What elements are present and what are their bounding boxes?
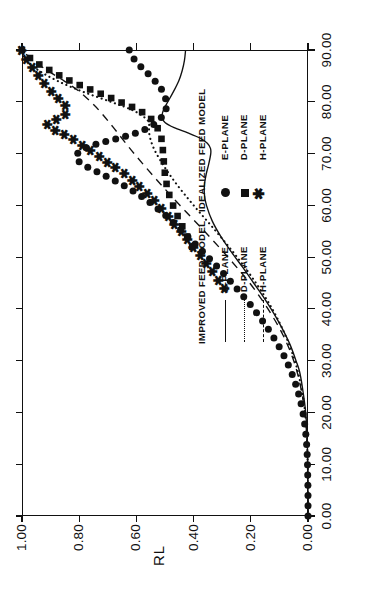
legend-item: H-PLANE (254, 220, 273, 344)
data-point-circle (126, 47, 133, 54)
x-axis-tick (308, 308, 315, 309)
data-point-square (76, 82, 83, 89)
legend-item: E-PLANE (216, 220, 235, 344)
data-point-square (161, 158, 168, 165)
x-axis-tick (308, 257, 315, 258)
y-axis-tick-label: 1.00 (14, 524, 29, 576)
legend-item: D-PLANE (235, 220, 254, 344)
y-axis-tick (307, 43, 308, 50)
data-point-circle (152, 78, 159, 85)
y-axis-tick-label: 0.20 (243, 524, 258, 576)
data-point-square (66, 77, 73, 84)
data-point-circle (280, 352, 287, 359)
legend-item-label: E-PLANE (219, 115, 230, 160)
data-point-circle (112, 135, 119, 142)
data-point-circle (301, 421, 308, 428)
data-point-square (160, 147, 167, 154)
data-point-square (163, 181, 170, 188)
data-point-circle (84, 164, 91, 171)
x-axis-tick (308, 49, 315, 50)
legend-item: ✱H-PLANE (254, 88, 273, 212)
data-point-circle (304, 461, 311, 468)
legend-heading: IMPROVED FEED MODEL (196, 220, 207, 344)
y-axis-tick (79, 43, 80, 50)
x-axis-tick (16, 360, 23, 361)
data-point-circle (295, 390, 302, 397)
legend-heading: IDEALIZED FEED MODEL (196, 88, 207, 212)
y-axis-tick (21, 43, 22, 50)
x-axis-tick (308, 101, 315, 102)
legend-item: E-PLANE (216, 88, 235, 212)
y-axis-tick (136, 515, 137, 522)
y-axis-title: RL (150, 545, 167, 566)
x-axis-tick (308, 515, 315, 516)
data-point-circle (76, 158, 83, 165)
legend-marker-swatch (241, 189, 249, 197)
x-axis-tick (308, 464, 315, 465)
x-axis-tick (16, 308, 23, 309)
y-axis-tick (136, 43, 137, 50)
data-point-square (108, 95, 115, 102)
y-axis-tick-label: 0.80 (71, 524, 86, 576)
data-point-circle (305, 502, 312, 509)
legend-asterisk-swatch: ✱ (253, 186, 264, 200)
data-point-circle (132, 130, 139, 137)
data-point-circle (302, 431, 309, 438)
x-axis-tick-label: 90.00 (319, 18, 334, 82)
legend-group-improved: IMPROVED FEED MODELE-PLANED-PLANEH-PLANE (196, 220, 273, 344)
legend-item-label: H-PLANE (257, 246, 268, 292)
legend-group-idealized: IDEALIZED FEED MODELE-PLANED-PLANE✱H-PLA… (196, 88, 273, 212)
data-point-circle (74, 150, 81, 157)
y-axis-tick (250, 515, 251, 522)
data-point-circle (102, 138, 109, 145)
data-point-circle (145, 70, 152, 77)
x-axis-tick (16, 257, 23, 258)
y-axis-tick-label: 0.00 (300, 524, 315, 576)
data-point-circle (285, 362, 292, 369)
legend-item-label: E-PLANE (219, 247, 230, 292)
x-axis-tick (16, 205, 23, 206)
y-axis-tick (21, 515, 22, 522)
chart-legend: IMPROVED FEED MODELE-PLANED-PLANEH-PLANE… (196, 108, 300, 344)
legend-spacer (207, 220, 216, 344)
data-point-square (97, 90, 104, 97)
legend-item-label: D-PLANE (238, 246, 249, 292)
data-point-circle (93, 168, 100, 175)
x-axis-tick (16, 153, 23, 154)
data-point-circle (131, 56, 138, 63)
data-point-circle (137, 63, 144, 70)
data-point-square (46, 67, 53, 74)
data-point-circle (300, 410, 307, 417)
data-point-square (148, 116, 155, 123)
legend-key-dotted-line (235, 298, 253, 344)
legend-line-swatch (263, 300, 264, 342)
data-point-circle (122, 133, 129, 140)
legend-item-label: D-PLANE (238, 114, 249, 160)
legend-item-label: H-PLANE (257, 114, 268, 160)
y-axis-tick-label: 0.40 (186, 524, 201, 576)
rotated-figure-wrapper: ✱✱✱✱✱✱✱✱✱✱✱✱✱✱✱✱✱✱✱✱✱✱✱✱✱✱✱✱✱✱✱✱✱✱✱ 0.00… (0, 0, 373, 594)
data-point-circle (304, 482, 311, 489)
legend-spacer (207, 88, 216, 212)
x-axis-tick (16, 412, 23, 413)
data-point-circle (158, 114, 165, 121)
legend-key-asterisk-marker: ✱ (254, 166, 272, 212)
legend-key-solid-line (216, 298, 234, 344)
data-point-square (170, 202, 177, 209)
x-axis-tick (308, 360, 315, 361)
data-point-square (56, 72, 63, 79)
data-point-circle (298, 400, 305, 407)
data-point-square (87, 86, 94, 93)
figure: ✱✱✱✱✱✱✱✱✱✱✱✱✱✱✱✱✱✱✱✱✱✱✱✱✱✱✱✱✱✱✱✱✱✱✱ 0.00… (0, 0, 373, 594)
data-point-circle (304, 451, 311, 458)
x-axis-tick (308, 153, 315, 154)
data-point-circle (158, 86, 165, 93)
data-point-square (158, 136, 165, 143)
data-point-square (118, 99, 125, 106)
x-axis-tick (308, 205, 315, 206)
data-point-circle (162, 95, 169, 102)
x-axis-tick (16, 101, 23, 102)
chart-screenshot: ✱✱✱✱✱✱✱✱✱✱✱✱✱✱✱✱✱✱✱✱✱✱✱✱✱✱✱✱✱✱✱✱✱✱✱ 0.00… (0, 0, 373, 594)
data-point-square (154, 125, 161, 132)
legend-marker-swatch (221, 188, 230, 197)
